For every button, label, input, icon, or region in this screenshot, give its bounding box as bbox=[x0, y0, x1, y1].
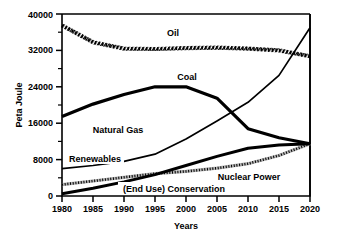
x-tick-label-1990: 1990 bbox=[114, 204, 134, 214]
x-tick-label-2005: 2005 bbox=[207, 204, 227, 214]
y-tick-label-24000: 24000 bbox=[28, 82, 53, 92]
x-tick-label-2010: 2010 bbox=[238, 204, 258, 214]
x-tick-label-2015: 2015 bbox=[269, 204, 289, 214]
series-label-coal: Coal bbox=[177, 72, 197, 82]
y-tick-label-0: 0 bbox=[48, 191, 53, 201]
y-axis-title: Peta Joule bbox=[14, 82, 24, 127]
y-tick-label-40000: 40000 bbox=[28, 10, 53, 20]
series-label-renewables: Renewables bbox=[69, 154, 121, 164]
y-tick-label-32000: 32000 bbox=[28, 45, 53, 55]
x-axis-title: Years bbox=[174, 221, 198, 231]
series-label-coal-group: Coal bbox=[172, 70, 202, 82]
series-label-natural-gas: Natural Gas bbox=[93, 125, 144, 135]
series-label-conservation-group: (End Use) Conservation bbox=[118, 182, 230, 194]
x-tick-label-2020: 2020 bbox=[300, 204, 320, 214]
chart-canvas: 0 8000 16000 24000 32000 40000 1980 1985… bbox=[0, 0, 337, 236]
x-tick-label-2000: 2000 bbox=[176, 204, 196, 214]
x-tick-label-1985: 1985 bbox=[83, 204, 103, 214]
series-label-end-use-conservation: (End Use) Conservation bbox=[123, 184, 225, 194]
series-label-nuclear-power: Nuclear Power bbox=[218, 172, 281, 182]
series-label-renewables-group: Renewables bbox=[66, 152, 124, 164]
x-tick-label-1980: 1980 bbox=[52, 204, 72, 214]
y-tick-label-8000: 8000 bbox=[33, 155, 53, 165]
energy-projection-chart: 0 8000 16000 24000 32000 40000 1980 1985… bbox=[0, 0, 337, 236]
series-label-oil-group: Oil bbox=[162, 26, 184, 38]
y-tick-label-16000: 16000 bbox=[28, 118, 53, 128]
x-tick-label-1995: 1995 bbox=[145, 204, 165, 214]
series-label-oil: Oil bbox=[167, 28, 179, 38]
